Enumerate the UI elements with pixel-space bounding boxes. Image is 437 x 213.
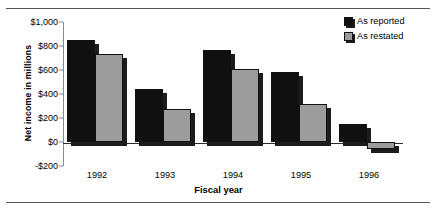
bar-group: 1994: [199, 22, 267, 166]
bar-1995-as-restated[interactable]: [299, 104, 327, 142]
top-divider: [6, 8, 430, 9]
bar-1995-as-reported[interactable]: [271, 72, 299, 142]
y-axis-tick-label: $1,000: [30, 17, 58, 27]
bar-group: 1995: [267, 22, 335, 166]
x-axis-tick-label: 1992: [63, 170, 131, 180]
y-axis-tick-label: $800: [38, 41, 58, 51]
y-axis-tick-label: -$200: [35, 161, 58, 171]
y-axis-title: Net income in millions: [23, 18, 33, 168]
x-axis-tick-label: 1993: [131, 170, 199, 180]
legend-item-as-reported[interactable]: As reported: [344, 16, 405, 26]
bar-1994-as-restated[interactable]: [231, 69, 259, 142]
chart-legend: As reported As restated: [344, 16, 405, 46]
y-axis-tick-label: $0: [48, 137, 58, 147]
legend-swatch-as-reported: [344, 17, 353, 26]
bar-group: 1992: [63, 22, 131, 166]
legend-label-as-restated: As restated: [357, 31, 403, 41]
x-axis-tick-label: 1996: [335, 170, 403, 180]
chart-figure: Net income in millions $1,000$800$600$40…: [0, 0, 437, 213]
bar-1993-as-reported[interactable]: [135, 89, 163, 142]
y-axis-tick-label: $600: [38, 65, 58, 75]
bar-1992-as-restated[interactable]: [95, 54, 123, 142]
bar-1992-as-reported[interactable]: [67, 40, 95, 142]
y-axis-tick-label: $200: [38, 113, 58, 123]
bar-group: 1993: [131, 22, 199, 166]
bar-1993-as-restated[interactable]: [163, 109, 191, 142]
x-axis-tick-label: 1994: [199, 170, 267, 180]
y-axis-tick-label: $400: [38, 89, 58, 99]
bar-1994-as-reported[interactable]: [203, 50, 231, 142]
x-axis-title: Fiscal year: [0, 184, 437, 195]
bar-1996-as-restated[interactable]: [367, 142, 395, 149]
bar-1996-as-reported[interactable]: [339, 124, 367, 142]
legend-swatch-as-restated: [344, 32, 353, 41]
x-axis-tick-label: 1995: [267, 170, 335, 180]
legend-item-as-restated[interactable]: As restated: [344, 31, 405, 41]
bottom-divider: [6, 202, 430, 203]
legend-label-as-reported: As reported: [357, 16, 405, 26]
